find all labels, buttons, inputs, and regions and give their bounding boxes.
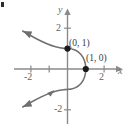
y-tick-label-pos2: 2 (56, 23, 61, 33)
y-axis-label: y (58, 5, 62, 15)
graph-figure: y x -2 2 2 -2 (0, 1) (1, 0) (0, 0, 128, 127)
x-tick-label-neg2: -2 (24, 72, 32, 82)
coordinate-plane-svg (0, 0, 128, 127)
x-axis-label: x (118, 66, 122, 76)
y-axis (64, 9, 70, 125)
x-tick-label-pos2: 2 (99, 72, 104, 82)
point-label-0-1: (0, 1) (69, 39, 90, 49)
point-label-1-0: (1, 0) (86, 54, 107, 64)
marked-point-1-0 (83, 66, 89, 72)
y-tick-label-neg2: -2 (54, 104, 62, 114)
